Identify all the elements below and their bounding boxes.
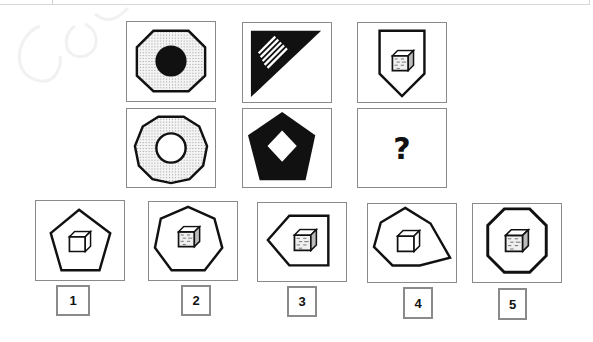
irregular-hexagon-with-white-cube-icon [368,204,456,282]
question-mark: ? [358,109,446,187]
option-5-figure[interactable] [472,203,562,283]
octagon-with-black-circle-figure [127,22,215,101]
striped-black-triangle-figure [243,23,331,102]
matrix-cell-r2c3-missing: ? [357,108,447,188]
option-4-label[interactable]: 4 [403,287,433,319]
octagon-with-dotted-cube-icon [473,204,561,282]
matrix-cell-r1c3 [357,22,447,103]
option-2-label[interactable]: 2 [181,285,211,316]
decagon-with-white-circle-figure [127,109,215,187]
black-pentagon-with-white-diamond-figure [243,109,331,187]
heptagon-with-dotted-cube-icon [149,202,237,280]
matrix-cell-r1c1 [126,21,216,102]
option-4-figure[interactable] [367,203,457,283]
option-5-label[interactable]: 5 [498,288,527,320]
option-1-figure[interactable] [35,200,125,281]
option-1-label[interactable]: 1 [56,285,90,316]
option-3-figure[interactable] [257,202,347,282]
top-frame-edge [0,0,590,5]
option-3-label[interactable]: 3 [287,286,317,317]
matrix-cell-r2c2 [242,108,332,188]
top-frame-divider [52,0,53,4]
pentagon-with-white-cube-icon [36,201,124,280]
option-2-figure[interactable] [148,201,238,281]
left-arrow-pentagon-with-dotted-cube-icon [258,203,346,281]
matrix-cell-r2c1 [126,108,216,188]
matrix-cell-r1c2 [242,22,332,103]
shield-with-dotted-cube-figure [358,23,446,102]
